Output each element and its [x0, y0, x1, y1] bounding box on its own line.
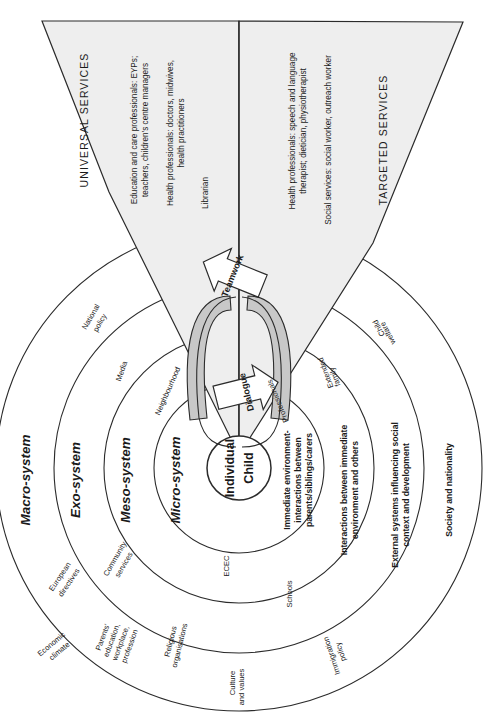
universal-entry-librarian: Librarian [201, 177, 210, 209]
exo-description-line-2: context and development [401, 443, 411, 547]
universal-entry-education-l1: Education and care professionals: EYPs; [130, 56, 139, 204]
system-label-macro: Macro-system [18, 435, 33, 526]
universal-services-title: UNIVERSAL SERVICES [78, 53, 90, 188]
ring-label-ecec: ECEC [222, 555, 231, 577]
micro-description-line-1: Immediate environment- [282, 430, 292, 529]
center-label-child: Child [242, 452, 256, 483]
macro-description-line-1: Society and nationality [444, 443, 454, 537]
diagram-canvas: Individual Child Micro-system Meso-syste… [0, 0, 488, 724]
universal-entry-education-l2: teachers, children's centre managers [141, 63, 150, 197]
meso-description-line-1: Interactions between immediate [339, 425, 349, 556]
targeted-entry-health-l1: Health professionals: speech and languag… [288, 52, 297, 209]
ring-label-schools: Schools [285, 580, 294, 607]
center-circle-individual-child [207, 436, 271, 500]
micro-description-line-3: parents/siblings/carers [304, 433, 314, 527]
targeted-entry-health-l2: therapist; dietician, physiotherapist [299, 67, 308, 193]
micro-description-line-2: interactions between [293, 437, 303, 522]
universal-entry-health-l1: Health professionals: doctors, midwives, [166, 60, 175, 206]
system-label-micro: Micro-system [168, 436, 183, 523]
meso-description-line-2: environment and others [350, 441, 360, 539]
system-label-meso: Meso-system [118, 437, 133, 523]
center-label-individual: Individual [223, 439, 237, 497]
exo-description-line-1: External systems influencing social [390, 422, 400, 568]
universal-entry-health-l2: health practitioners [177, 98, 186, 167]
system-label-exo: Exo-system [68, 442, 83, 518]
ring-label-culture-values-l1: Culture [228, 671, 237, 695]
ring-label-culture-values-l2: and values [237, 668, 246, 705]
ecological-systems-diagram: Individual Child Micro-system Meso-syste… [0, 0, 488, 724]
targeted-services-title: TARGETED SERVICES [377, 75, 389, 206]
targeted-entry-social-services: Social services: social worker, outreach… [324, 55, 333, 225]
